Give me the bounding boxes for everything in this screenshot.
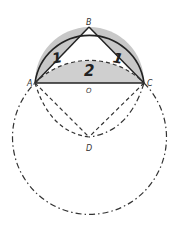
point-label-d: D [86, 144, 92, 153]
line-cd [89, 83, 144, 137]
region-label-segment: 2 [84, 62, 94, 80]
point-label-c: C [147, 79, 153, 88]
point-label-o: O [86, 87, 92, 95]
line-ad [35, 83, 89, 137]
region-label-lune-right: 1 [112, 49, 124, 66]
point-label-b: B [86, 18, 92, 27]
point-label-a: A [26, 79, 32, 88]
lune-diagram: 1 1 2 B A C O D [0, 0, 178, 230]
